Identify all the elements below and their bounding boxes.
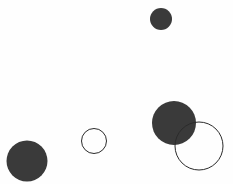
circle-canvas [0,0,233,184]
filled-large-bottom-right [152,101,196,145]
shape-layer [0,0,233,184]
filled-small-top [150,8,172,30]
filled-medium-bottom-left [7,141,48,182]
